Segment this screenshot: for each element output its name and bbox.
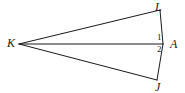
angle-label-2: 2 (157, 45, 162, 54)
angle-label-1: 1 (157, 33, 162, 42)
vertex-label-A: A (170, 38, 177, 50)
vertex-label-K: K (7, 37, 15, 49)
vertex-label-L: L (155, 1, 162, 13)
geometry-figure: K L A J 1 2 (0, 0, 185, 93)
segment-KL (19, 10, 160, 44)
vertex-label-J: J (155, 81, 160, 93)
segment-KJ (19, 44, 157, 80)
